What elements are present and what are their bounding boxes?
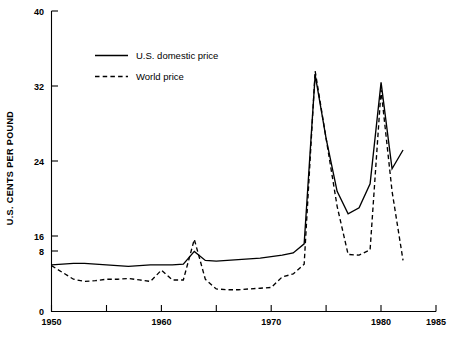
- y-tick-label-0: 0: [39, 307, 44, 317]
- y-axis-tick-labels: 40 32 24 16 8 0: [34, 7, 44, 318]
- x-tick-label-1970: 1970: [261, 317, 281, 327]
- legend-label-us-domestic-price: U.S. domestic price: [136, 50, 218, 61]
- x-tick-label-1985: 1985: [426, 317, 446, 327]
- x-tick-label-1960: 1960: [151, 317, 171, 327]
- line-chart-svg: U.S. CENTS PER POUND 40 32 24 16 8 0 195…: [0, 0, 463, 337]
- x-tick-label-1980: 1980: [371, 317, 391, 327]
- legend-label-world-price: World price: [136, 71, 184, 82]
- chart-container: U.S. CENTS PER POUND 40 32 24 16 8 0 195…: [0, 0, 463, 337]
- series-line-world-price: [52, 71, 404, 290]
- y-tick-label-8: 8: [39, 247, 44, 257]
- y-axis-ticks: [52, 11, 59, 251]
- x-axis-tick-labels: 1950 1960 1970 1980 1985: [41, 317, 446, 327]
- x-tick-label-1950: 1950: [41, 317, 61, 327]
- y-tick-label-32: 32: [34, 82, 44, 92]
- y-tick-label-24: 24: [34, 157, 44, 167]
- y-tick-label-40: 40: [34, 7, 44, 17]
- legend: U.S. domestic price World price: [95, 50, 218, 82]
- series-line-us-domestic-price: [52, 75, 404, 267]
- y-tick-label-16: 16: [34, 232, 44, 242]
- x-axis-ticks: [52, 305, 437, 312]
- y-axis-title: U.S. CENTS PER POUND: [5, 111, 15, 226]
